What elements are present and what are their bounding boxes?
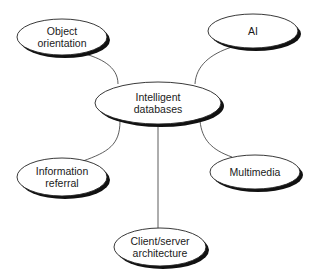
node-object-orientation: Objectorientation [17, 19, 110, 58]
node-intelligent-databases: Intelligentdatabases [95, 82, 224, 127]
mind-map-diagram: IntelligentdatabasesObjectorientationAII… [0, 0, 317, 274]
node-multimedia: Multimedia [210, 155, 303, 192]
node-label: architecture [133, 247, 188, 259]
node-ai: AI [208, 14, 301, 51]
edge-ai [195, 47, 232, 84]
node-label: databases [134, 103, 182, 115]
edges [82, 47, 232, 228]
node-label: orientation [37, 37, 86, 49]
node-information-referral: Informationreferral [17, 158, 110, 199]
edge-object-orientation [82, 53, 118, 84]
node-label: Multimedia [230, 166, 281, 178]
edge-multimedia [200, 121, 232, 157]
node-label: Intelligent [136, 91, 181, 103]
nodes: IntelligentdatabasesObjectorientationAII… [17, 14, 303, 269]
node-label: AI [248, 25, 258, 37]
node-label: Object [47, 25, 77, 37]
node-client-server-architecture: Client/serverarchitecture [114, 228, 209, 269]
node-label: Client/server [131, 235, 190, 247]
edge-information-referral [83, 121, 120, 161]
node-label: referral [45, 177, 78, 189]
node-label: Information [36, 165, 89, 177]
